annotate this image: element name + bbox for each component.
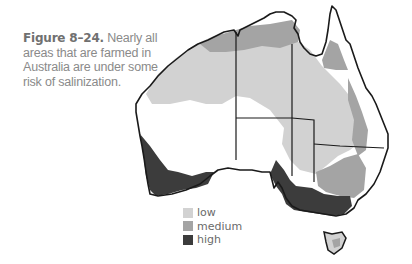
legend: low medium high — [183, 206, 242, 247]
legend-item-high: high — [183, 233, 242, 247]
legend-item-low: low — [183, 206, 242, 220]
legend-swatch-medium — [183, 221, 193, 231]
legend-label-low: low — [197, 206, 216, 219]
legend-label-medium: medium — [197, 220, 242, 233]
legend-item-medium: medium — [183, 220, 242, 234]
legend-swatch-high — [183, 235, 193, 245]
legend-label-high: high — [197, 233, 221, 246]
legend-swatch-low — [183, 208, 193, 218]
region-high-southwest — [140, 134, 214, 196]
